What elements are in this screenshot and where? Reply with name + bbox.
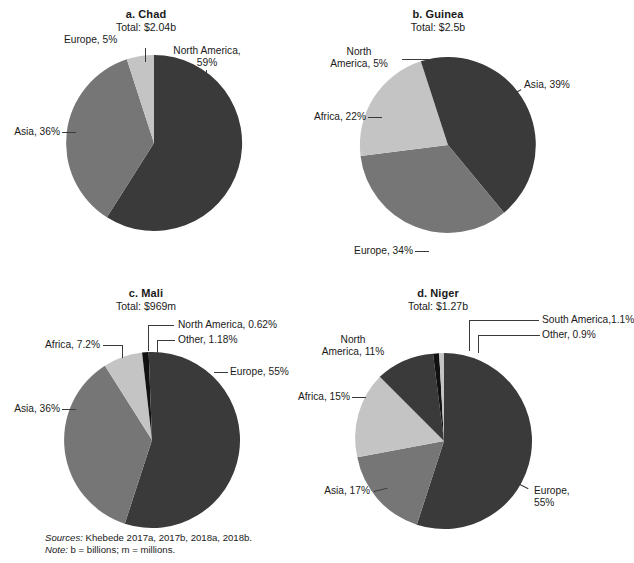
panel-total-mali: Total: $969m [0, 300, 292, 313]
leader-guinea-north-america-v [447, 59, 448, 69]
label-niger-europe: Europe, 55% [534, 485, 570, 510]
footer-note-row: Note: b = billions; m = millions. [45, 544, 565, 557]
pie-guinea [360, 57, 536, 233]
panel-chad: a. Chad Total: $2.04b Europe, 5% North A… [0, 8, 292, 268]
panel-mali: c. Mali Total: $969m North America, 0.62… [0, 287, 292, 537]
label-guinea-asia: Asia, 39% [524, 79, 570, 91]
panel-title-niger: d. Niger [292, 287, 584, 300]
label-guinea-africa: Africa, 22% [296, 111, 366, 123]
figure-footer: Sources: Khebede 2017a, 2017b, 2018a, 20… [45, 532, 565, 557]
leader-niger-south-america-h [469, 320, 539, 321]
leader-guinea-north-america-h [402, 59, 448, 60]
pie-guinea-svg [360, 57, 536, 233]
pie-chad-svg [66, 55, 242, 231]
leader-mali-europe [214, 372, 228, 373]
label-mali-north-america: North America, 0.62% [178, 319, 277, 331]
label-mali-asia: Asia, 36% [0, 403, 60, 415]
label-guinea-north-america: North America, 5% [318, 46, 400, 71]
panel-title-guinea: b. Guinea [292, 8, 584, 21]
label-guinea-europe: Europe, 34% [337, 245, 413, 257]
leader-mali-asia [62, 409, 76, 410]
leader-niger-other-h [478, 335, 540, 336]
leader-guinea-europe [415, 251, 429, 252]
label-chad-north-america: North America, 59% [160, 45, 254, 70]
footer-sources-label: Sources: [45, 532, 83, 543]
label-chad-asia: Asia, 36% [0, 126, 60, 138]
label-chad-europe: Europe, 5% [64, 34, 117, 46]
pie-mali [64, 352, 240, 528]
pie-chad [66, 55, 242, 231]
footer-note-label: Note: [45, 544, 68, 555]
label-niger-north-america: North America, 11% [310, 334, 396, 359]
leader-chad-asia [62, 132, 76, 133]
panel-total-niger: Total: $1.27b [292, 300, 584, 313]
leader-mali-north-america-v [148, 325, 149, 351]
panel-guinea: b. Guinea Total: $2.5b North America, 5%… [292, 8, 584, 268]
leader-mali-north-america-h [148, 325, 174, 326]
pie-mali-svg [64, 352, 240, 528]
leader-guinea-africa [368, 117, 382, 118]
leader-mali-africa-v [122, 345, 123, 358]
panel-niger: d. Niger Total: $1.27b South America,1.1… [292, 287, 584, 537]
leader-chad-north-america [206, 70, 207, 84]
panel-total-chad: Total: $2.04b [0, 21, 292, 34]
panel-total-guinea: Total: $2.5b [292, 21, 584, 34]
leader-mali-africa-h [103, 345, 123, 346]
label-niger-asia: Asia, 17% [312, 485, 370, 497]
leader-mali-other-v [157, 340, 158, 353]
panel-title-mali: c. Mali [0, 287, 292, 300]
leader-chad-europe [145, 48, 146, 62]
leader-niger-africa [352, 397, 366, 398]
label-niger-africa: Africa, 15% [292, 391, 350, 403]
label-niger-other: Other, 0.9% [542, 329, 596, 341]
label-niger-south-america: South America,1.1% [542, 314, 634, 326]
panel-title-chad: a. Chad [0, 8, 292, 21]
leader-mali-other-h [157, 340, 175, 341]
pie-niger [356, 353, 532, 529]
label-mali-other: Other, 1.18% [178, 334, 237, 346]
leader-niger-other-v [478, 335, 479, 353]
label-mali-africa: Africa, 7.2% [26, 339, 100, 351]
footer-sources-row: Sources: Khebede 2017a, 2017b, 2018a, 20… [45, 532, 565, 545]
pie-niger-svg [356, 353, 532, 529]
leader-niger-south-america-v [469, 320, 470, 351]
label-mali-europe: Europe, 55% [230, 366, 289, 378]
footer-note-text: b = billions; m = millions. [68, 544, 175, 555]
footer-sources-text: Khebede 2017a, 2017b, 2018a, 2018b. [83, 532, 252, 543]
